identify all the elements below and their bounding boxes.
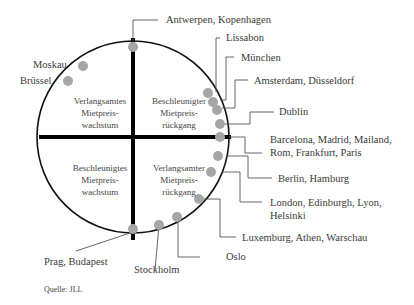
quadrant-label-line: rückgang (137, 186, 221, 198)
label-berlin: Berlin, Hamburg (278, 172, 349, 185)
quadrant-label-line: Verlangsamtes (58, 95, 142, 107)
label-luxemburg: Luxemburg, Athen, Warschau (242, 231, 367, 244)
label-bruessel: Brüssel (20, 74, 52, 87)
quadrant-bottom-right: Verlangsamter Mietpreis- rückgang (137, 162, 221, 198)
label-line: London, Edinburgh, Lyon, (270, 196, 382, 209)
label-dublin: Dublin (279, 105, 308, 118)
quadrant-label-line: wachstum (58, 186, 142, 198)
quadrant-top-left: Verlangsamtes Mietpreis- wachstum (58, 95, 142, 131)
quadrant-label-line: Mietpreis- (137, 174, 221, 186)
label-line: Barcelona, Madrid, Mailand, (270, 133, 392, 146)
quadrant-label-line: Beschleunigtes (58, 162, 142, 174)
quadrant-label-line: Beschleunigter (137, 95, 221, 107)
label-lissabon: Lissabon (226, 31, 264, 44)
quadrant-label-line: rückgang (137, 119, 221, 131)
quadrant-top-right: Beschleunigter Mietpreis- rückgang (137, 95, 221, 131)
quadrant-label-line: Verlangsamter (137, 162, 221, 174)
label-line: Helsinki (270, 209, 382, 222)
label-prag: Prag, Budapest (44, 255, 108, 268)
label-stockholm: Stockholm (134, 263, 180, 276)
quadrant-label-line: Mietpreis- (58, 107, 142, 119)
label-moskau: Moskau (33, 58, 67, 71)
quadrant-bottom-left: Beschleunigtes Mietpreis- wachstum (58, 162, 142, 198)
label-london: London, Edinburgh, Lyon, Helsinki (270, 196, 382, 222)
label-antwerpen: Antwerpen, Kopenhagen (166, 13, 271, 26)
quadrant-label-line: Mietpreis- (58, 174, 142, 186)
quadrant-label-line: wachstum (58, 119, 142, 131)
label-barcelona: Barcelona, Madrid, Mailand, Rom, Frankfu… (270, 133, 392, 159)
label-oslo: Oslo (226, 250, 246, 263)
label-amsterdam: Amsterdam, Düsseldorf (254, 74, 354, 87)
label-line: Rom, Frankfurt, Paris (270, 146, 392, 159)
quadrant-label-line: Mietpreis- (137, 107, 221, 119)
label-muenchen: München (241, 51, 281, 64)
source-note: Quelle: JLL (44, 285, 82, 294)
